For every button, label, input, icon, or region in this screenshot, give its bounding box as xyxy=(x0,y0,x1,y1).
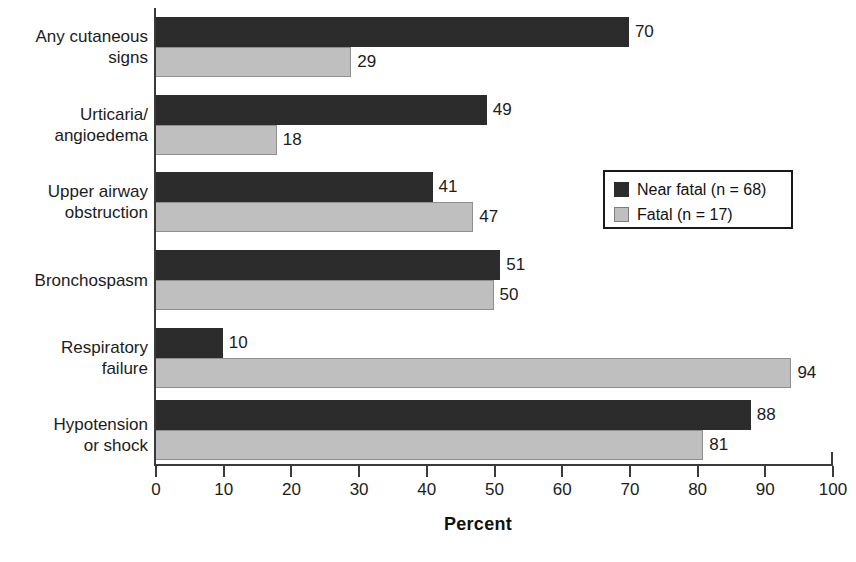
x-tick-label-100: 100 xyxy=(803,480,856,500)
legend-item-near-fatal: Near fatal (n = 68) xyxy=(614,177,791,202)
x-tick-20 xyxy=(290,466,292,477)
bar-value-label-fatal-4: 94 xyxy=(791,358,816,388)
x-tick-label-90: 90 xyxy=(735,480,795,500)
x-tick-50 xyxy=(494,466,496,477)
bar-fatal-1 xyxy=(155,125,277,155)
category-label-1: Urticaria/ angioedema xyxy=(0,104,148,146)
category-label-2: Upper airway obstruction xyxy=(0,181,148,223)
category-label-0: Any cutaneous signs xyxy=(0,26,148,68)
x-tick-100 xyxy=(832,466,834,477)
category-label-4: Respiratory failure xyxy=(0,337,148,379)
bar-fatal-3 xyxy=(155,280,494,310)
legend-label-near-fatal: Near fatal (n = 68) xyxy=(637,181,766,199)
x-tick-label-30: 30 xyxy=(329,480,389,500)
x-tick-label-0: 0 xyxy=(126,480,186,500)
bar-near-fatal-1 xyxy=(155,95,487,125)
bar-chart: Any cutaneous signs Urticaria/ angioedem… xyxy=(0,0,856,562)
x-tick-label-70: 70 xyxy=(600,480,660,500)
bar-value-label-near-fatal-3: 51 xyxy=(500,250,525,280)
light-swatch-icon xyxy=(614,207,629,222)
bar-near-fatal-4 xyxy=(155,328,223,358)
x-tick-label-50: 50 xyxy=(465,480,525,500)
legend: Near fatal (n = 68) Fatal (n = 17) xyxy=(603,170,793,229)
bar-near-fatal-2 xyxy=(155,172,433,202)
bar-value-label-fatal-5: 81 xyxy=(703,430,728,460)
x-tick-label-10: 10 xyxy=(194,480,254,500)
x-tick-90 xyxy=(764,466,766,477)
x-tick-label-20: 20 xyxy=(261,480,321,500)
x-tick-30 xyxy=(358,466,360,477)
bar-fatal-4 xyxy=(155,358,791,388)
x-tick-label-40: 40 xyxy=(397,480,457,500)
x-tick-label-80: 80 xyxy=(668,480,728,500)
bar-fatal-5 xyxy=(155,430,703,460)
y-axis-line xyxy=(154,8,156,466)
bar-value-label-fatal-0: 29 xyxy=(351,47,376,77)
bar-fatal-2 xyxy=(155,202,473,232)
bar-value-label-fatal-1: 18 xyxy=(277,125,302,155)
x-tick-40 xyxy=(426,466,428,477)
x-tick-80 xyxy=(697,466,699,477)
bar-fatal-0 xyxy=(155,47,351,77)
x-tick-0 xyxy=(155,466,157,477)
bar-near-fatal-0 xyxy=(155,17,629,47)
x-tick-10 xyxy=(223,466,225,477)
x-tick-label-60: 60 xyxy=(532,480,592,500)
bar-near-fatal-3 xyxy=(155,250,500,280)
category-label-5: Hypotension or shock xyxy=(0,414,148,456)
x-axis-end-cap xyxy=(831,452,833,466)
x-axis-title: Percent xyxy=(0,514,856,535)
bar-value-label-near-fatal-5: 88 xyxy=(751,400,776,430)
bar-value-label-near-fatal-1: 49 xyxy=(487,95,512,125)
plot-area: 702949184147515010948881 xyxy=(155,8,832,465)
bar-value-label-near-fatal-2: 41 xyxy=(433,172,458,202)
legend-label-fatal: Fatal (n = 17) xyxy=(637,206,733,224)
category-label-3: Bronchospasm xyxy=(0,270,148,291)
bar-value-label-near-fatal-4: 10 xyxy=(223,328,248,358)
x-tick-60 xyxy=(561,466,563,477)
dark-swatch-icon xyxy=(614,182,629,197)
x-tick-70 xyxy=(629,466,631,477)
bar-near-fatal-5 xyxy=(155,400,751,430)
bar-value-label-fatal-3: 50 xyxy=(494,280,519,310)
bar-value-label-near-fatal-0: 70 xyxy=(629,17,654,47)
bar-value-label-fatal-2: 47 xyxy=(473,202,498,232)
legend-item-fatal: Fatal (n = 17) xyxy=(614,202,791,227)
